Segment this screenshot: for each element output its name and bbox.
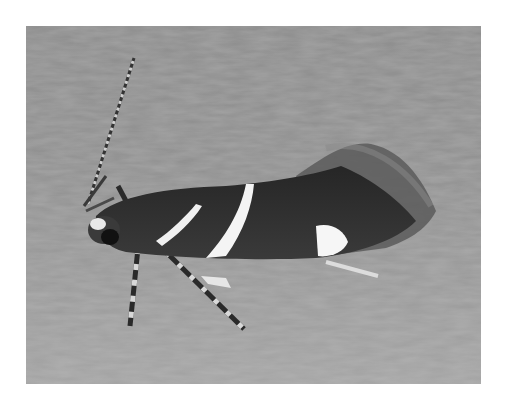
moth-photo xyxy=(26,26,481,384)
moth-illustration xyxy=(26,26,481,384)
